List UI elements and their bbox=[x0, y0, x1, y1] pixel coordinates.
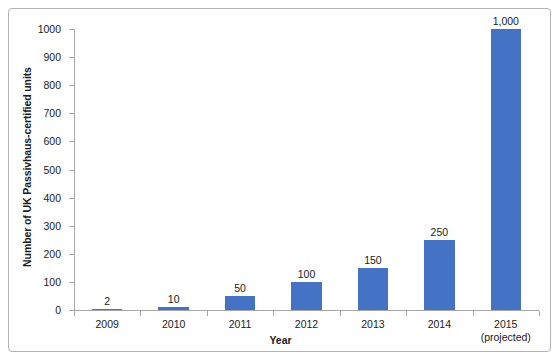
x-axis-tick bbox=[74, 311, 75, 316]
y-axis-tick: 800 bbox=[69, 85, 74, 86]
y-axis-tick-label: 900 bbox=[43, 51, 61, 63]
y-axis-tick: 700 bbox=[69, 113, 74, 114]
x-axis-category-label-text: 2012 bbox=[295, 318, 318, 330]
x-axis-category-label: 2012 bbox=[295, 318, 318, 331]
x-axis-category-label-text: 2011 bbox=[229, 318, 252, 330]
y-axis-line bbox=[74, 29, 75, 311]
x-axis-tick bbox=[273, 311, 274, 316]
x-axis-category-label: 2011 bbox=[229, 318, 252, 331]
chart-frame: Number of UK Passivhaus-certified units … bbox=[8, 8, 551, 352]
x-axis-category-label: 2013 bbox=[361, 318, 384, 331]
bar-value-label: 1,000 bbox=[493, 15, 519, 27]
y-axis-tick: 600 bbox=[69, 141, 74, 142]
bar-value-label: 2 bbox=[104, 295, 110, 307]
bar-value-label: 150 bbox=[364, 254, 382, 266]
y-axis-tick: 400 bbox=[69, 198, 74, 199]
y-axis-tick-label: 700 bbox=[43, 107, 61, 119]
x-axis-category-label-text: 2009 bbox=[96, 318, 119, 330]
y-axis-tick-label: 200 bbox=[43, 248, 61, 260]
y-axis-tick: 900 bbox=[69, 57, 74, 58]
bar[interactable] bbox=[424, 240, 455, 310]
x-axis-category-label-text: 2013 bbox=[361, 318, 384, 330]
x-axis-category-label-text: 2014 bbox=[428, 318, 451, 330]
x-axis-category-label: 2010 bbox=[162, 318, 185, 331]
y-axis-tick-label: 600 bbox=[43, 135, 61, 147]
plot-area: 01002003004005006007008009001000 2105010… bbox=[74, 29, 539, 311]
bar[interactable] bbox=[92, 309, 123, 310]
bar[interactable] bbox=[291, 282, 322, 310]
y-axis-tick: 1000 bbox=[69, 29, 74, 30]
x-axis-category-label-text: 2010 bbox=[162, 318, 185, 330]
bar-value-label: 100 bbox=[298, 268, 316, 280]
x-axis-tick bbox=[406, 311, 407, 316]
x-axis-title: Year bbox=[9, 334, 552, 346]
y-axis-tick: 500 bbox=[69, 170, 74, 171]
bar[interactable] bbox=[158, 307, 189, 310]
x-axis-line bbox=[74, 310, 539, 311]
y-axis-tick-label: 500 bbox=[43, 164, 61, 176]
bar-value-label: 50 bbox=[234, 282, 246, 294]
x-axis-category-label: 2014 bbox=[428, 318, 451, 331]
y-axis-tick: 200 bbox=[69, 254, 74, 255]
y-axis-tick-label: 1000 bbox=[38, 23, 61, 35]
x-axis-tick bbox=[340, 311, 341, 316]
bar[interactable] bbox=[358, 268, 389, 310]
x-axis-tick bbox=[539, 311, 540, 316]
x-axis-tick bbox=[207, 311, 208, 316]
y-axis-title: Number of UK Passivhaus-certified units bbox=[21, 52, 33, 282]
y-axis-tick-label: 100 bbox=[43, 276, 61, 288]
x-axis-category-label: 2009 bbox=[96, 318, 119, 331]
y-axis-tick-label: 400 bbox=[43, 192, 61, 204]
y-axis-tick-label: 800 bbox=[43, 79, 61, 91]
x-axis-tick bbox=[140, 311, 141, 316]
y-axis-tick-label: 0 bbox=[55, 304, 61, 316]
bar[interactable] bbox=[225, 296, 256, 310]
bar-value-label: 10 bbox=[168, 293, 180, 305]
bar-value-label: 250 bbox=[431, 226, 449, 238]
x-axis-tick bbox=[473, 311, 474, 316]
y-axis-tick-label: 300 bbox=[43, 220, 61, 232]
y-axis-tick: 300 bbox=[69, 226, 74, 227]
bar[interactable] bbox=[491, 29, 522, 310]
x-axis-category-label-text: 2015 bbox=[494, 318, 517, 330]
y-axis-tick: 100 bbox=[69, 282, 74, 283]
